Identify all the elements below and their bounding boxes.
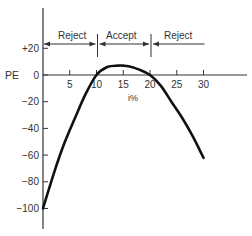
x-tick-label: 5 <box>67 79 73 90</box>
y-tick-label: 0 <box>33 70 39 81</box>
arrowhead-icon <box>153 42 159 47</box>
pe-vs-interest-chart: +200−20−40−60−80−100 51015202530 PE i% R… <box>0 0 252 236</box>
y-tick-label: −60 <box>22 150 39 161</box>
region-label-reject-left: Reject <box>58 30 87 41</box>
y-tick-label: −100 <box>16 203 39 214</box>
x-tick-label: 20 <box>144 79 156 90</box>
region-label-accept: Accept <box>106 30 137 41</box>
y-tick-label: −40 <box>22 123 39 134</box>
arrowhead-icon <box>90 42 96 47</box>
y-axis-label: PE <box>5 69 19 81</box>
arrowhead-icon <box>143 42 149 47</box>
region-label-reject-right: Reject <box>164 30 193 41</box>
y-tick-labels: +200−20−40−60−80−100 <box>16 43 39 214</box>
x-axis-label: i% <box>128 93 138 103</box>
y-tick-label: −80 <box>22 176 39 187</box>
y-tick-label: −20 <box>22 96 39 107</box>
x-tick-label: 30 <box>198 79 210 90</box>
x-tick-label: 25 <box>171 79 183 90</box>
arrowhead-icon <box>100 42 106 47</box>
x-tick-label: 15 <box>118 79 130 90</box>
y-tick-label: +20 <box>22 43 39 54</box>
arrowhead-icon <box>44 42 50 47</box>
tick-marks <box>43 48 204 208</box>
